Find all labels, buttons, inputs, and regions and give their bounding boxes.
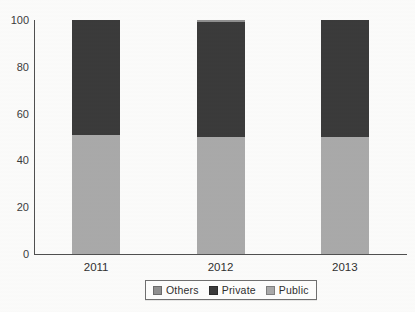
legend-swatch-icon xyxy=(209,286,218,295)
stacked-bar-chart: 020406080100 201120122013 OthersPrivateP… xyxy=(0,0,415,312)
bar-segment-public-2011 xyxy=(72,135,120,254)
y-tick-label: 20 xyxy=(0,201,29,213)
x-axis-line xyxy=(34,254,407,255)
bar-segment-private-2012 xyxy=(197,22,245,137)
y-tick-label: 0 xyxy=(0,248,29,260)
bar-segment-others-2012 xyxy=(197,20,245,22)
bar-segment-public-2013 xyxy=(321,137,369,254)
y-tick-label: 100 xyxy=(0,14,29,26)
legend-label: Public xyxy=(279,284,309,296)
bar-segment-private-2011 xyxy=(72,20,120,135)
legend-swatch-icon xyxy=(153,286,162,295)
y-tick-label: 80 xyxy=(0,61,29,73)
legend-item-others: Others xyxy=(153,284,199,296)
y-axis-line xyxy=(34,20,35,254)
legend-item-private: Private xyxy=(209,284,256,296)
y-tick-label: 40 xyxy=(0,154,29,166)
y-tick-label: 60 xyxy=(0,108,29,120)
bar-segment-private-2013 xyxy=(321,20,369,137)
legend-swatch-icon xyxy=(266,286,275,295)
legend-label: Others xyxy=(166,284,199,296)
chart-legend: OthersPrivatePublic xyxy=(145,280,317,300)
x-tick-label: 2011 xyxy=(66,261,126,273)
bar-segment-public-2012 xyxy=(197,137,245,254)
legend-item-public: Public xyxy=(266,284,309,296)
legend-label: Private xyxy=(222,284,256,296)
x-tick-label: 2013 xyxy=(315,261,375,273)
x-tick-label: 2012 xyxy=(191,261,251,273)
